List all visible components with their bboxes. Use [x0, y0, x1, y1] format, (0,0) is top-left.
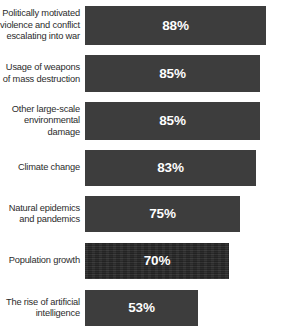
bar-category-label: Politically motivated violence and confl…: [0, 8, 85, 42]
bar-track: 53%: [85, 290, 283, 326]
bar-track: 83%: [85, 150, 283, 186]
chart-row: The rise of artificial intelligence 53%: [0, 290, 283, 326]
bar-track: 75%: [85, 196, 283, 232]
bar-track: 85%: [85, 55, 283, 92]
bar[interactable]: 75%: [85, 196, 240, 232]
bar-category-label: Usage of weapons of mass destruction: [0, 62, 85, 85]
bar-category-label: Population growth: [0, 255, 85, 266]
bar[interactable]: 85%: [85, 55, 260, 92]
bar-value-label: 88%: [162, 19, 188, 33]
bar[interactable]: 88%: [85, 6, 266, 45]
bar[interactable]: 53%: [85, 290, 198, 326]
bar-category-label: Natural epidemics and pandemics: [0, 203, 85, 226]
bar-value-label: 70%: [144, 254, 170, 268]
chart-row: Natural epidemics and pandemics 75%: [0, 196, 283, 232]
chart-row: Usage of weapons of mass destruction 85%: [0, 55, 283, 92]
bar-track: 88%: [85, 6, 283, 45]
bar-value-label: 53%: [128, 301, 154, 315]
bar[interactable]: 83%: [85, 150, 256, 186]
bar-category-label: The rise of artificial intelligence: [0, 297, 85, 320]
chart-row: Climate change 83%: [0, 150, 283, 186]
bar-value-label: 85%: [159, 114, 185, 128]
bar-category-label: Other large-scale environmental damage: [0, 104, 85, 138]
bar[interactable]: 70%: [85, 243, 229, 279]
bar-category-label: Climate change: [0, 162, 85, 173]
chart-row: Other large-scale environmental damage 8…: [0, 102, 283, 140]
chart-row: Population growth 70%: [0, 243, 283, 279]
bar-track: 70%: [85, 243, 283, 279]
bar-value-label: 85%: [159, 67, 185, 81]
chart-row: Politically motivated violence and confl…: [0, 6, 283, 45]
bar-value-label: 83%: [157, 161, 183, 175]
horizontal-bar-chart: Politically motivated violence and confl…: [0, 0, 283, 331]
bar[interactable]: 85%: [85, 102, 260, 140]
bar-value-label: 75%: [149, 207, 175, 221]
bar-track: 85%: [85, 102, 283, 140]
